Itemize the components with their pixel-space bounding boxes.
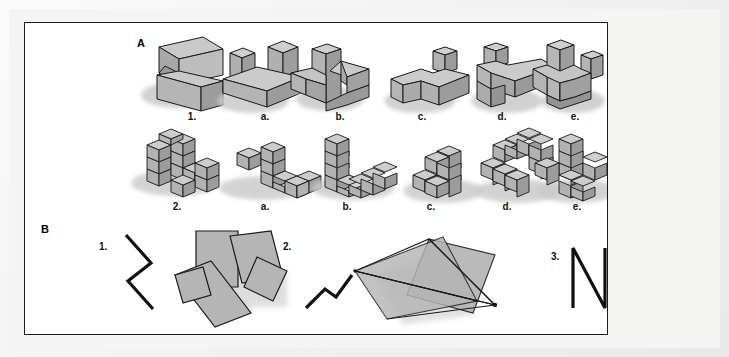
label-b-item-0: 1. xyxy=(99,241,107,252)
label-b-item-2: 3. xyxy=(551,251,559,262)
figure-container: A B xyxy=(0,0,729,357)
label-b-item-1: 2. xyxy=(283,241,291,252)
figure-plate: A B xyxy=(24,22,608,335)
b3-complex-wrapper xyxy=(25,23,608,335)
